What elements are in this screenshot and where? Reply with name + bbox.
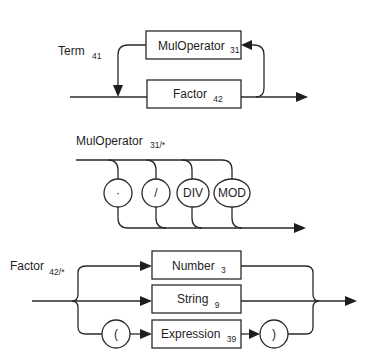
- muloperator-branch-2: [146, 160, 156, 179]
- svg-text:MulOperator 31: MulOperator 31: [158, 39, 240, 55]
- muloperator-merge-3: [192, 207, 202, 228]
- term-loop-left-arrow-icon: [241, 40, 252, 50]
- factor-merge-top: [241, 266, 319, 301]
- term-loop-down-arrow-icon: [113, 85, 123, 97]
- svg-text:(: (: [114, 327, 118, 341]
- term-box-factor[interactable]: Factor 42: [147, 80, 241, 108]
- muloperator-exit-arrow-icon: [294, 223, 306, 233]
- rule-factor: Factor 42/* Number 3 St: [10, 251, 357, 348]
- rule-term: Term 41 MulOperator 31 Factor 42: [58, 31, 308, 108]
- terminal-divide[interactable]: /: [142, 179, 170, 207]
- factor-expression-arrow-icon: [140, 329, 152, 339]
- svg-text:): ): [272, 327, 276, 341]
- factor-box-expression[interactable]: Expression 39: [152, 320, 241, 348]
- factor-box-string[interactable]: String 9: [152, 285, 241, 313]
- rule-term-title: Term 41: [58, 44, 102, 61]
- factor-string-arrow-icon: [140, 296, 152, 306]
- svg-text:Number 3: Number 3: [172, 259, 226, 275]
- muloperator-branch-1: [108, 160, 118, 179]
- term-loop-return-path: [118, 45, 146, 88]
- term-box-muloperator[interactable]: MulOperator 31: [146, 31, 241, 59]
- rule-factor-title: Factor 42/*: [10, 259, 65, 277]
- muloperator-bottom-rail: [118, 207, 296, 228]
- svg-text:·: ·: [116, 186, 120, 200]
- rule-muloperator-title: MulOperator 31/*: [76, 134, 166, 150]
- svg-text:DIV: DIV: [183, 186, 203, 200]
- term-loop-up-path: [251, 45, 264, 97]
- rule-muloperator: MulOperator 31/* · / DIV MOD: [76, 134, 306, 233]
- svg-text:MOD: MOD: [218, 186, 246, 200]
- factor-merge-bottom: [288, 301, 319, 334]
- muloperator-merge-4: [232, 207, 242, 228]
- factor-close-paren-arrow-icon: [249, 329, 260, 339]
- terminal-multiply[interactable]: ·: [104, 179, 132, 207]
- muloperator-branch-3: [182, 160, 192, 179]
- muloperator-merge-2: [156, 207, 166, 228]
- terminal-mod[interactable]: MOD: [214, 179, 250, 207]
- factor-number-arrow-icon: [140, 261, 152, 271]
- term-exit-arrow-icon: [296, 92, 308, 102]
- factor-split-bottom: [72, 301, 102, 334]
- terminal-div[interactable]: DIV: [177, 179, 209, 207]
- terminal-close-paren[interactable]: ): [260, 320, 288, 348]
- factor-box-number[interactable]: Number 3: [152, 251, 241, 279]
- factor-exit-arrow-icon: [345, 296, 357, 306]
- factor-split-top: [72, 266, 140, 301]
- terminal-open-paren[interactable]: (: [102, 320, 130, 348]
- syntax-diagram-canvas: Term 41 MulOperator 31 Factor 42: [0, 0, 379, 364]
